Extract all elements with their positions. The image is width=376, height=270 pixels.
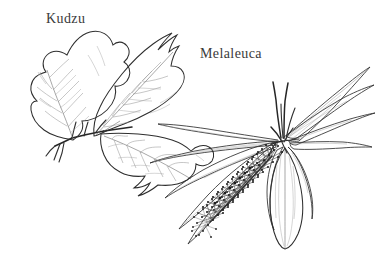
label-melaleuca: Melaleuca [200, 47, 262, 61]
label-kudzu: Kudzu [46, 12, 85, 26]
botanical-drawing-svg [0, 0, 376, 270]
botanical-illustration: Kudzu Melaleuca [0, 0, 376, 270]
